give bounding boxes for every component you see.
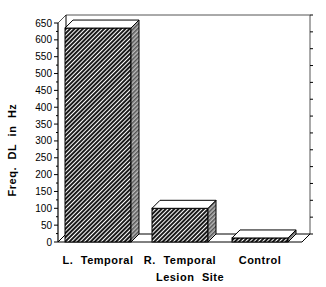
- y-tick-label: 0: [46, 237, 52, 248]
- y-tick-label: 500: [35, 68, 52, 79]
- y-tick-label: 100: [35, 203, 52, 214]
- y-tick-label: 300: [35, 135, 52, 146]
- y-tick-label: 150: [35, 186, 52, 197]
- y-tick-label: 450: [35, 85, 52, 96]
- y-tick-label: 650: [35, 18, 52, 29]
- x-axis-label: Lesion Site: [156, 271, 224, 283]
- y-tick-label: 400: [35, 102, 52, 113]
- bar-r-temporal: [152, 200, 216, 242]
- y-tick-label: 550: [35, 51, 52, 62]
- y-tick-label: 50: [41, 220, 53, 231]
- x-category-label: L. Temporal: [62, 254, 133, 266]
- y-tick-label: 200: [35, 169, 52, 180]
- y-tick-label: 250: [35, 152, 52, 163]
- y-tick-label: 600: [35, 34, 52, 45]
- bars: [65, 20, 296, 242]
- x-category-label: Control: [239, 254, 282, 266]
- y-axis-label: Freq. DL in Hz: [6, 104, 18, 197]
- y-tick-label: 350: [35, 119, 52, 130]
- bar-chart: 050100150200250300350400450500550600650: [0, 0, 326, 287]
- bar-l-temporal: [65, 20, 139, 242]
- bar-control: [232, 230, 296, 242]
- x-category-label: R. Temporal: [144, 254, 216, 266]
